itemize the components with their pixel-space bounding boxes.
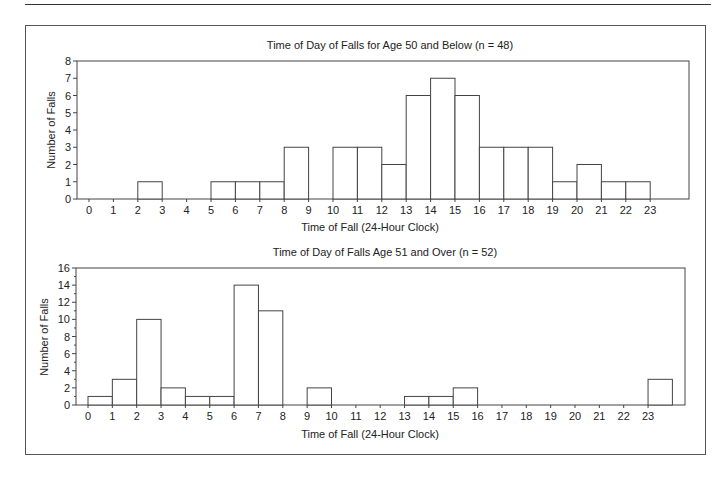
- y-tick-label: 12: [58, 296, 70, 308]
- x-tick-label: 21: [593, 410, 605, 422]
- histogram-bar: [577, 165, 601, 200]
- y-tick-label: 0: [65, 193, 71, 205]
- histogram-bar: [307, 388, 331, 405]
- histogram-bar: [406, 96, 430, 200]
- y-tick-label: 16: [58, 262, 70, 274]
- histogram-bar: [626, 182, 650, 199]
- x-tick-label: 18: [520, 410, 532, 422]
- x-tick-label: 17: [498, 204, 510, 216]
- histogram-bar: [429, 396, 453, 405]
- x-tick-label: 6: [232, 204, 238, 216]
- y-tick-label: 8: [65, 55, 71, 67]
- figure-canvas: Time of Day of Falls for Age 50 and Belo…: [0, 0, 725, 477]
- histogram-bar: [553, 182, 577, 199]
- histogram-bar: [528, 147, 552, 199]
- x-tick-label: 22: [618, 410, 630, 422]
- histogram-bar: [405, 396, 429, 405]
- x-tick-label: 21: [595, 204, 607, 216]
- histogram-bar: [648, 379, 672, 405]
- x-tick-label: 12: [376, 204, 388, 216]
- x-tick-label: 23: [642, 410, 654, 422]
- histogram-bar: [137, 319, 161, 405]
- x-tick-label: 4: [182, 410, 188, 422]
- plot-frame: [76, 268, 685, 405]
- x-tick-label: 19: [546, 204, 558, 216]
- chart-bottom-xlabel: Time of Fall (24-Hour Clock): [301, 428, 439, 440]
- x-tick-label: 8: [280, 410, 286, 422]
- histogram-bar: [185, 396, 209, 405]
- histogram-bar: [258, 311, 282, 405]
- y-tick-label: 4: [64, 365, 70, 377]
- chart-top-xlabel: Time of Fall (24-Hour Clock): [301, 221, 439, 233]
- histogram-bar: [210, 396, 234, 405]
- x-tick-label: 8: [281, 204, 287, 216]
- histogram-bar: [333, 147, 357, 199]
- x-tick-label: 10: [327, 204, 339, 216]
- histogram-bar: [88, 396, 112, 405]
- chart-top-title: Time of Day of Falls for Age 50 and Belo…: [267, 39, 513, 51]
- histogram-bar: [455, 96, 479, 200]
- x-tick-label: 20: [571, 204, 583, 216]
- x-tick-label: 17: [496, 410, 508, 422]
- x-tick-label: 23: [644, 204, 656, 216]
- y-tick-label: 10: [58, 313, 70, 325]
- y-tick-label: 1: [65, 176, 71, 188]
- x-tick-label: 10: [325, 410, 337, 422]
- x-tick-label: 19: [545, 410, 557, 422]
- chart-bottom: Time of Day of Falls Age 51 and Over (n …: [38, 246, 685, 440]
- x-tick-label: 9: [306, 204, 312, 216]
- y-tick-label: 2: [65, 159, 71, 171]
- histogram-bar: [211, 182, 235, 199]
- histogram-bar: [504, 147, 528, 199]
- y-tick-label: 2: [64, 382, 70, 394]
- x-tick-label: 7: [255, 410, 261, 422]
- x-tick-label: 1: [109, 410, 115, 422]
- x-tick-label: 22: [620, 204, 632, 216]
- x-tick-label: 9: [304, 410, 310, 422]
- histogram-bar: [601, 182, 625, 199]
- x-tick-label: 20: [569, 410, 581, 422]
- y-tick-label: 3: [65, 141, 71, 153]
- histogram-bar: [357, 147, 381, 199]
- x-tick-label: 18: [522, 204, 534, 216]
- y-tick-label: 4: [65, 124, 71, 136]
- x-tick-label: 5: [208, 204, 214, 216]
- x-tick-label: 13: [398, 410, 410, 422]
- histogram-bar: [431, 78, 455, 199]
- chart-bottom-ylabel: Number of Falls: [38, 298, 50, 376]
- histogram-bar: [284, 147, 308, 199]
- histogram-bar: [112, 379, 136, 405]
- x-tick-label: 14: [424, 204, 436, 216]
- histogram-bar: [235, 182, 259, 199]
- x-tick-label: 15: [447, 410, 459, 422]
- x-tick-label: 11: [352, 204, 363, 216]
- histogram-bar: [382, 165, 406, 200]
- y-tick-label: 6: [65, 90, 71, 102]
- x-tick-label: 2: [134, 410, 140, 422]
- chart-top-plot-area: 0123456780123456789101112131415161718192…: [65, 55, 689, 216]
- x-tick-label: 4: [184, 204, 190, 216]
- x-tick-label: 14: [423, 410, 435, 422]
- x-tick-label: 13: [400, 204, 412, 216]
- x-tick-label: 3: [159, 204, 165, 216]
- histogram-bar: [161, 388, 185, 405]
- y-tick-label: 5: [65, 107, 71, 119]
- x-tick-label: 11: [350, 410, 361, 422]
- x-tick-label: 5: [207, 410, 213, 422]
- x-tick-label: 16: [471, 410, 483, 422]
- x-tick-label: 0: [86, 204, 92, 216]
- y-tick-label: 0: [64, 399, 70, 411]
- histogram-bar: [453, 388, 477, 405]
- x-tick-label: 3: [158, 410, 164, 422]
- y-tick-label: 7: [65, 72, 71, 84]
- x-tick-label: 6: [231, 410, 237, 422]
- x-tick-label: 2: [135, 204, 141, 216]
- histogram-bar: [479, 147, 503, 199]
- x-tick-label: 12: [374, 410, 386, 422]
- histogram-bar: [234, 285, 258, 405]
- chart-top-ylabel: Number of Falls: [45, 91, 57, 169]
- x-tick-label: 16: [473, 204, 485, 216]
- x-tick-label: 7: [257, 204, 263, 216]
- x-tick-label: 1: [110, 204, 116, 216]
- y-tick-label: 14: [58, 279, 70, 291]
